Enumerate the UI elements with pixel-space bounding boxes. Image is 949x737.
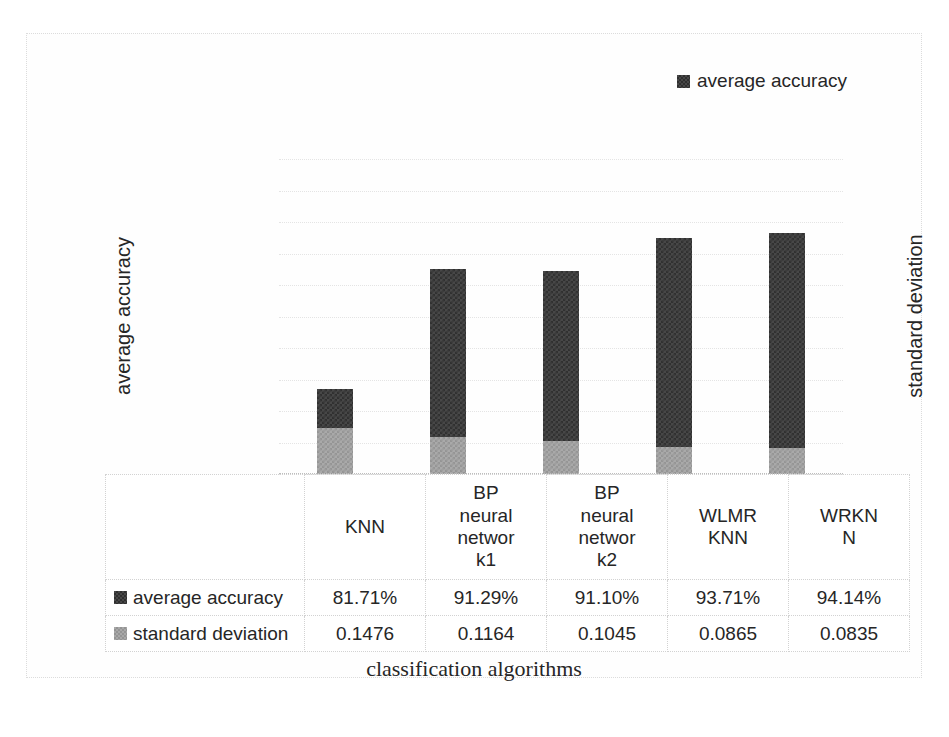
gridline-minor (279, 222, 843, 223)
bar-column (543, 271, 579, 474)
table-rowhead-label-standard-deviation: standard deviation (133, 623, 288, 645)
table-corner-cell (106, 475, 305, 580)
table-cell-category: WRKNN (789, 475, 910, 580)
table-cell-standard-deviation: 0.1476 (305, 616, 426, 652)
table-cell-category: BPneuralnetwork1 (426, 475, 547, 580)
bar-segment-standard-deviation (769, 448, 805, 474)
table-cell-standard-deviation: 0.0835 (789, 616, 910, 652)
bar-column (317, 389, 353, 474)
table-cell-category: BPneuralnetwork2 (547, 475, 668, 580)
bar-segment-standard-deviation (656, 447, 692, 474)
table-swatch-average-accuracy (114, 591, 127, 604)
table-cell-category: KNN (305, 475, 426, 580)
gridline-minor (279, 159, 843, 160)
table-rowhead-label-average-accuracy: average accuracy (133, 587, 283, 609)
bar-segment-standard-deviation (543, 441, 579, 474)
table-cell-standard-deviation: 0.1164 (426, 616, 547, 652)
legend-swatch-average-accuracy (677, 75, 690, 88)
table-cell-average-accuracy: 91.10% (547, 580, 668, 616)
bar-segment-standard-deviation (430, 437, 466, 474)
bar-segment-average-accuracy (317, 389, 353, 427)
table-rowhead-standard-deviation: standard deviation (106, 616, 305, 652)
plot-area: 100.00%95.00%90.00%85.00%80.00%75.00% 10… (279, 159, 843, 474)
table-cell-average-accuracy: 81.71% (305, 580, 426, 616)
table-row-standard-deviation: standard deviation 0.14760.11640.10450.0… (106, 616, 910, 652)
table-cell-standard-deviation: 0.1045 (547, 616, 668, 652)
table-cell-average-accuracy: 94.14% (789, 580, 910, 616)
bar-column (769, 233, 805, 474)
table-cell-average-accuracy: 93.71% (668, 580, 789, 616)
table-row-average-accuracy: average accuracy 81.71%91.29%91.10%93.71… (106, 580, 910, 616)
chart-data-table: KNNBPneuralnetwork1BPneuralnetwork2WLMRK… (105, 474, 910, 652)
bar-segment-average-accuracy (430, 269, 466, 438)
legend-label-average-accuracy: average accuracy (697, 70, 847, 92)
chart-figure: average accuracy average accuracy standa… (26, 33, 922, 678)
bar-segment-standard-deviation (317, 428, 353, 474)
bar-segment-average-accuracy (543, 271, 579, 441)
table-swatch-standard-deviation (114, 627, 127, 640)
y-axis-left-title: average accuracy (112, 237, 135, 395)
bar-segment-average-accuracy (769, 233, 805, 448)
table-cell-category: WLMRKNN (668, 475, 789, 580)
bar-column (430, 269, 466, 474)
x-axis-title: classification algorithms (27, 656, 921, 682)
bar-column (656, 238, 692, 474)
table-row-categories: KNNBPneuralnetwork1BPneuralnetwork2WLMRK… (106, 475, 910, 580)
table-cell-standard-deviation: 0.0865 (668, 616, 789, 652)
table-rowhead-average-accuracy: average accuracy (106, 580, 305, 616)
gridline-minor (279, 191, 843, 192)
chart-legend: average accuracy (677, 70, 847, 92)
bar-segment-average-accuracy (656, 238, 692, 446)
table-cell-average-accuracy: 91.29% (426, 580, 547, 616)
gridline-minor (279, 254, 843, 255)
y-axis-right-title: standard deviation (904, 234, 927, 397)
